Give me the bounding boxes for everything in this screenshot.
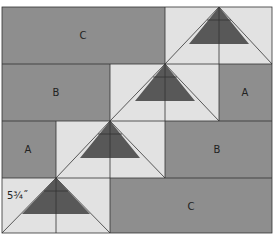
- label-c-bottom: C: [188, 201, 195, 212]
- label-c-top: C: [80, 30, 87, 41]
- dimension-label: 5¾˝: [7, 190, 28, 201]
- quilt-diagram: C B A A B C 5¾˝: [0, 0, 274, 235]
- label-b-row2: B: [214, 144, 221, 155]
- label-a-row2: A: [25, 144, 32, 155]
- label-b-row1: B: [53, 87, 60, 98]
- label-a-row1: A: [242, 87, 249, 98]
